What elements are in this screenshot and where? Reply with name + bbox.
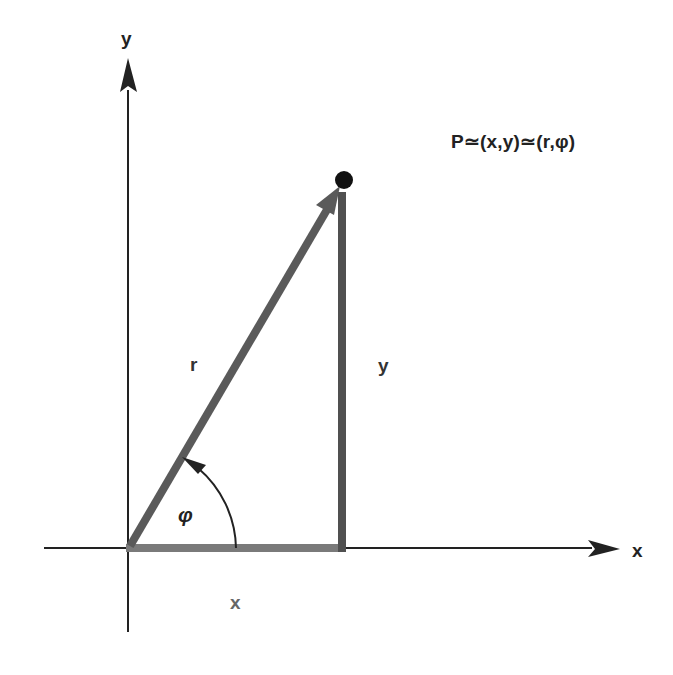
x-axis-arrow-icon: [588, 540, 620, 557]
x-axis-label: x: [632, 540, 643, 562]
y-segment-label: y: [378, 355, 389, 377]
y-axis-arrow-icon: [120, 58, 137, 92]
angle-label: φ: [178, 503, 193, 527]
y-axis-label: y: [121, 28, 132, 50]
r-label: r: [190, 354, 197, 376]
point-label: P≃(x,y)≃(r,φ): [451, 130, 575, 153]
polar-diagram: [0, 0, 673, 675]
r-vector-arrow-icon: [316, 186, 340, 215]
x-segment-label: x: [230, 592, 241, 614]
r-vector: [130, 186, 340, 546]
point-p: [335, 171, 353, 189]
